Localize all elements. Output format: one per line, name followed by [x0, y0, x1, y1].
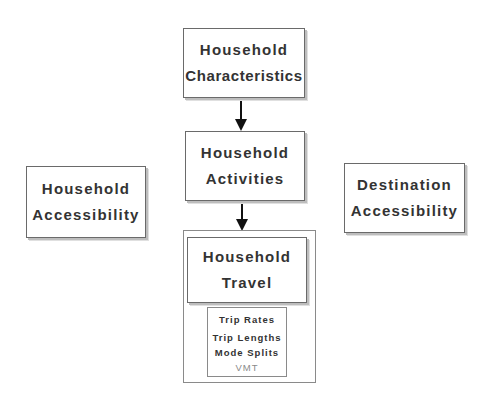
- node-label-line-2: Activities: [206, 166, 285, 192]
- node-household-travel: Household Travel: [187, 237, 307, 303]
- node-label-line-1: Household: [42, 176, 130, 202]
- node-household-activities: Household Activities: [185, 131, 305, 201]
- node-label-line-1: Household: [200, 37, 288, 63]
- output-trip-rates: Trip Rates: [219, 312, 275, 327]
- arrow-characteristics-to-activities: [235, 98, 247, 131]
- output-trip-lengths: Trip Lengths: [213, 330, 282, 345]
- node-household-characteristics: Household Characteristics: [183, 28, 305, 98]
- node-label-line-2: Characteristics: [185, 63, 302, 89]
- node-label-line-1: Destination: [357, 172, 452, 198]
- node-label-line-2: Accessibility: [351, 198, 458, 224]
- output-vmt: VMT: [235, 360, 258, 375]
- node-destination-accessibility: Destination Accessibility: [344, 163, 465, 233]
- output-mode-splits: Mode Splits: [215, 345, 279, 360]
- node-label-line-2: Accessibility: [32, 202, 139, 228]
- node-label-line-1: Household: [201, 140, 289, 166]
- node-household-accessibility: Household Accessibility: [26, 166, 146, 238]
- node-label-line-1: Household: [203, 244, 291, 270]
- travel-outputs-list: Trip Rates Trip Lengths Mode Splits VMT: [207, 307, 287, 377]
- node-label-line-2: Travel: [222, 270, 273, 296]
- arrow-activities-to-travel: [236, 201, 248, 231]
